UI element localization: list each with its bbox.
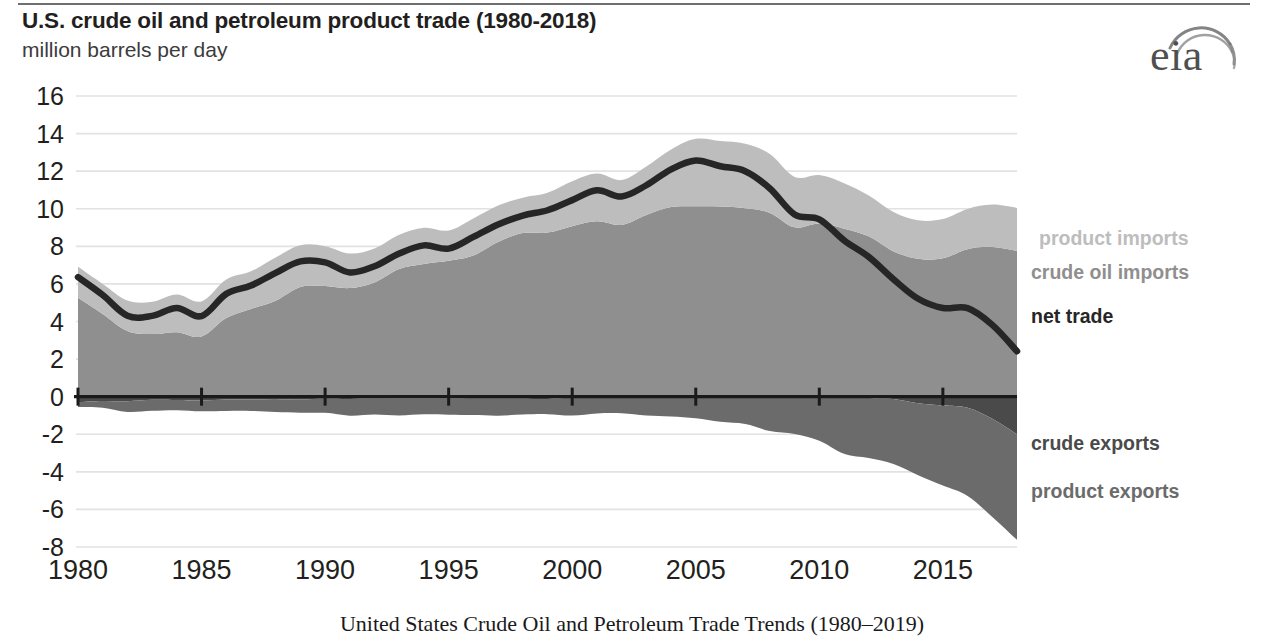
x-axis-tick-labels: 19801985199019952000200520102015 <box>48 555 973 585</box>
y-tick-label: 12 <box>36 157 64 185</box>
chart-figure: U.S. crude oil and petroleum product tra… <box>0 0 1264 643</box>
x-tick-label: 1980 <box>48 555 108 585</box>
x-tick-label: 1990 <box>295 555 355 585</box>
y-tick-label: 6 <box>50 270 64 298</box>
x-tick-label: 1985 <box>172 555 232 585</box>
series-label-product-imports: product imports <box>1039 227 1189 250</box>
y-tick-label: 0 <box>50 383 64 411</box>
x-tick-label: 2000 <box>542 555 602 585</box>
y-axis-tick-labels: 1614121086420-2-4-6-8 <box>36 82 64 561</box>
y-tick-label: -2 <box>42 420 64 448</box>
figure-caption: United States Crude Oil and Petroleum Tr… <box>0 611 1264 637</box>
y-tick-label: -6 <box>42 495 64 523</box>
y-tick-label: 2 <box>50 345 64 373</box>
series-label-product-exports: product exports <box>1031 480 1179 503</box>
series-label-crude-exports: crude exports <box>1031 432 1160 455</box>
series-label-crude-oil-imports: crude oil imports <box>1031 261 1189 284</box>
y-tick-label: -4 <box>42 458 64 486</box>
y-tick-label: 10 <box>36 195 64 223</box>
x-tick-label: 2005 <box>666 555 726 585</box>
y-tick-label: 4 <box>50 308 64 336</box>
x-tick-label: 1995 <box>419 555 479 585</box>
y-tick-label: 14 <box>36 120 64 148</box>
y-tick-label: 16 <box>36 82 64 110</box>
y-tick-label: 8 <box>50 232 64 260</box>
x-tick-label: 2015 <box>913 555 973 585</box>
negative-areas <box>78 397 1017 540</box>
area-product_exports <box>78 397 1017 540</box>
x-tick-label: 2010 <box>789 555 849 585</box>
area-chart-plot: 1614121086420-2-4-6-8 198019851990199520… <box>0 0 1264 600</box>
series-label-net-trade: net trade <box>1031 305 1113 328</box>
